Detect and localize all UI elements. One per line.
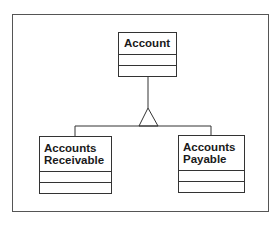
attributes-divider [119, 54, 176, 55]
class-name: Account [119, 33, 176, 49]
operations-divider [40, 182, 111, 183]
attributes-divider [40, 171, 111, 172]
class-accounts-payable[interactable]: Accounts Payable [178, 135, 245, 193]
operations-divider [119, 65, 176, 66]
class-name: Accounts Payable [179, 136, 244, 165]
class-account[interactable]: Account [118, 32, 177, 77]
generalization-triangle-icon [139, 108, 158, 126]
operations-divider [179, 181, 244, 182]
class-accounts-receivable[interactable]: Accounts Receivable [39, 136, 112, 194]
attributes-divider [179, 170, 244, 171]
class-name: Accounts Receivable [40, 137, 111, 166]
